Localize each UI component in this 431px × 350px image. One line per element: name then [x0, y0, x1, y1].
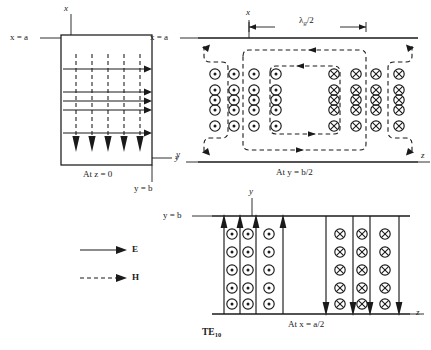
axis-label-y-panel3: y [249, 187, 253, 196]
h-field-crosses-panel3 [335, 229, 390, 309]
axis-label-z-panel3: z [416, 308, 420, 317]
h-field-dots-panel3 [227, 229, 274, 309]
mode-label-te10: TE10 [202, 328, 221, 338]
e-field-down-arrows-panel3 [323, 216, 403, 316]
panel-yz-xhalf-graphics [0, 0, 431, 350]
caption-panel3: At x = a/2 [288, 320, 324, 329]
figure-root: x x = a y y = b At z = 0 [0, 0, 431, 350]
wall-label-y-equals-b-panel3: y = b [163, 211, 182, 220]
